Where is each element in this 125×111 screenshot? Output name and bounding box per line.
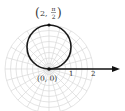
polar-axis-arrowhead-icon (112, 66, 120, 72)
svg-text:): ) (57, 6, 62, 20)
tick-label-1: 1 (69, 70, 73, 78)
point-pole (47, 67, 51, 71)
polar-diagram: ( 2, π 2 ) (0, 0) 1 2 (0, 0, 125, 111)
point-top-label: ( 2, π 2 ) (35, 5, 62, 20)
svg-text:2: 2 (52, 13, 56, 20)
svg-text:(: ( (35, 6, 40, 20)
point-top (47, 23, 50, 26)
tick-label-2: 2 (91, 70, 95, 78)
svg-text:2,: 2, (40, 9, 48, 18)
svg-text:π: π (52, 5, 56, 12)
pole-label: (0, 0) (37, 74, 57, 83)
